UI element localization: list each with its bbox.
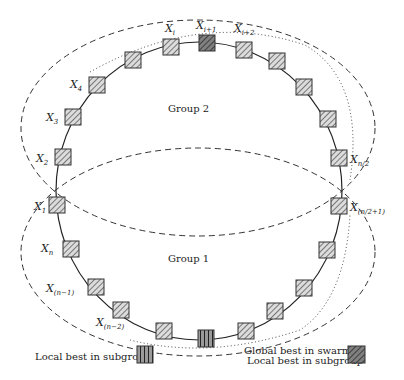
legend-local-best-label: Local best in subgroup	[35, 351, 151, 362]
label-x-i1: Xi+1	[195, 19, 216, 34]
node	[125, 52, 141, 68]
ring-topology-diagram: Xi Xi+1 Xi+2 X4 X3 X2 X1 Xn X(n−1) X(n−2…	[0, 0, 404, 380]
node-x-half	[331, 150, 347, 166]
node-x-half1	[331, 198, 347, 214]
node-x-1	[49, 197, 65, 213]
node	[319, 242, 335, 258]
node-x-4	[89, 77, 105, 93]
node-x-n2	[113, 302, 129, 318]
node-x-2	[55, 149, 71, 165]
label-x-n1: X(n−1)	[45, 282, 74, 297]
node-x-n	[63, 241, 79, 257]
node	[296, 280, 312, 296]
label-x-2: X2	[35, 152, 49, 167]
label-x-4: X4	[69, 78, 82, 93]
label-x-half1: X(n/2+1)	[349, 201, 385, 216]
node-x-i1-global-best	[199, 35, 215, 51]
node	[320, 111, 336, 127]
label-x-half: Xn/2	[349, 153, 370, 168]
node	[156, 323, 172, 339]
legend-local-best-swatch	[137, 346, 153, 363]
node	[269, 53, 285, 69]
group-2-boundary	[21, 20, 375, 236]
legend-global-local-best-label: Local best in subgroup	[247, 355, 363, 366]
label-x-i: Xi	[164, 22, 175, 37]
node	[267, 303, 283, 319]
group-2-label: Group 2	[168, 103, 209, 114]
legend-global-best-swatch	[348, 346, 365, 363]
label-x-i2: Xi+2	[233, 22, 255, 37]
node-x-n1	[88, 279, 104, 295]
label-x-3: X3	[45, 111, 59, 126]
node-x-3	[65, 109, 81, 125]
group-1-label: Group 1	[168, 253, 209, 264]
node	[238, 323, 254, 339]
node-x-i2	[236, 42, 252, 58]
node	[296, 79, 312, 95]
label-x-n: Xn	[40, 242, 54, 257]
node-x-i	[163, 39, 179, 55]
particle-nodes	[49, 35, 347, 347]
label-x-1: X1	[33, 200, 46, 215]
node-local-best-group-1	[198, 330, 214, 347]
